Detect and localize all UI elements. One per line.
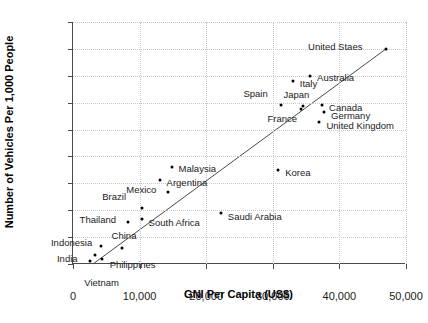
data-point	[309, 75, 312, 78]
data-point-label: Italy	[300, 79, 317, 89]
data-point	[126, 220, 129, 223]
y-axis-tick	[68, 103, 73, 104]
data-point	[100, 258, 103, 261]
y-axis-tick	[68, 22, 73, 23]
x-axis-tick-label: 40,000	[309, 290, 369, 302]
data-point	[93, 254, 96, 257]
data-point	[291, 79, 294, 82]
y-axis-tick	[68, 183, 73, 184]
x-axis-tick-label: 10,000	[110, 290, 170, 302]
data-point-label: India	[57, 254, 78, 264]
data-point-label: Australia	[317, 73, 354, 83]
x-axis-tick	[339, 264, 340, 269]
y-axis-title: Number of Vehicles Per 1,000 People	[2, 0, 16, 264]
x-axis-tick	[273, 264, 274, 269]
data-point-label: France	[267, 114, 297, 124]
data-point	[120, 247, 123, 250]
x-axis-tick	[206, 264, 207, 269]
data-point-label: Mexico	[126, 185, 156, 195]
x-axis-tick-label: 20,000	[176, 290, 236, 302]
trend-line	[73, 22, 406, 264]
data-point-label: China	[112, 231, 137, 241]
data-point	[140, 217, 143, 220]
data-point	[158, 179, 161, 182]
gridline-horizontal	[73, 156, 406, 157]
x-axis-tick-label: 0	[43, 290, 103, 302]
data-point-label: Japan	[283, 90, 309, 100]
y-axis-tick	[68, 76, 73, 77]
data-point	[302, 104, 305, 107]
scatter-chart: Number of Vehicles Per 1,000 People GNI …	[0, 0, 428, 323]
data-point-label: Indonesia	[51, 238, 92, 248]
x-axis-tick-label: 30,000	[243, 290, 303, 302]
data-point-label: United Kingdom	[326, 121, 394, 131]
y-axis-tick	[68, 210, 73, 211]
data-point	[323, 111, 326, 114]
data-point-label: Philippines	[110, 260, 156, 270]
data-point-label: South Africa	[149, 218, 200, 228]
data-point	[89, 259, 92, 262]
data-point	[300, 107, 303, 110]
data-point	[219, 212, 222, 215]
data-point	[280, 104, 283, 107]
data-point-label: United Staes	[308, 42, 362, 52]
data-point	[99, 244, 102, 247]
data-point	[318, 121, 321, 124]
data-point	[167, 190, 170, 193]
gridline-horizontal	[73, 76, 406, 77]
data-point-label: Thailand	[80, 215, 116, 225]
y-axis-tick	[68, 156, 73, 157]
data-point-label: Saudi Arabia	[228, 212, 282, 222]
gridline-horizontal	[73, 183, 406, 184]
data-point	[321, 103, 324, 106]
gridline-vertical	[339, 22, 340, 264]
gridline-vertical	[273, 22, 274, 264]
data-point	[170, 165, 173, 168]
gridline-vertical	[140, 22, 141, 264]
data-point	[141, 206, 144, 209]
x-axis-tick-label: 50,000	[376, 290, 428, 302]
x-axis-tick	[406, 264, 407, 269]
data-point-label: Argentina	[167, 178, 208, 188]
y-axis-tick	[68, 130, 73, 131]
data-point-label: Korea	[285, 168, 310, 178]
data-point-label: Spain	[243, 89, 267, 99]
plot-area: 0100200300400500600700800900010,00020,00…	[72, 22, 405, 264]
gridline-vertical	[406, 22, 407, 264]
data-point	[277, 168, 280, 171]
gridline-vertical	[206, 22, 207, 264]
x-axis-tick	[73, 264, 74, 269]
data-point-label: Brazil	[102, 192, 126, 202]
data-point	[385, 47, 388, 50]
data-point-label: Malaysia	[179, 164, 217, 174]
y-axis-tick	[68, 49, 73, 50]
gridline-horizontal	[73, 22, 406, 23]
data-point-label: Vietnam	[84, 278, 119, 288]
